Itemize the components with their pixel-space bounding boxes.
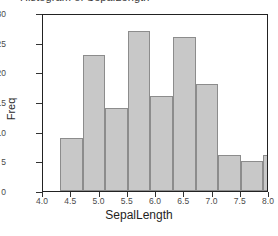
histogram-bar <box>105 108 128 191</box>
y-axis-tick-label: 10 <box>0 128 6 138</box>
y-axis-tick-label: 0 <box>0 187 6 197</box>
histogram-bar <box>128 31 151 191</box>
x-axis-tick-label: 7.0 <box>197 196 227 206</box>
histogram-figure: Histogram of SepalLength Freq SepalLengt… <box>0 0 278 236</box>
histogram-bar <box>196 84 219 191</box>
y-axis-tick-label: 20 <box>0 68 6 78</box>
plot-frame <box>42 14 268 192</box>
plot-area <box>43 15 267 191</box>
x-axis-label: SepalLength <box>0 208 278 222</box>
x-axis-tick-label: 8.0 <box>253 196 278 206</box>
x-axis-tick-label: 4.5 <box>55 196 85 206</box>
histogram-bar <box>263 155 267 191</box>
histogram-bar <box>218 155 241 191</box>
y-axis-tick-label: 30 <box>0 9 6 19</box>
y-axis-tick-label: 15 <box>0 98 6 108</box>
x-axis-tick-label: 5.5 <box>112 196 142 206</box>
histogram-bar <box>60 138 83 191</box>
histogram-bar <box>150 96 173 191</box>
x-axis-tick-label: 6.5 <box>168 196 198 206</box>
histogram-bar <box>83 55 106 191</box>
y-axis-tick <box>36 162 42 163</box>
x-axis-tick-label: 7.5 <box>225 196 255 206</box>
chart-title: Histogram of SepalLength <box>20 0 150 3</box>
y-axis-tick <box>36 103 42 104</box>
y-axis-tick <box>36 44 42 45</box>
histogram-bar <box>173 37 196 191</box>
y-axis-tick <box>36 133 42 134</box>
x-axis-tick-label: 4.0 <box>27 196 57 206</box>
histogram-bar <box>241 161 264 191</box>
y-axis-tick-label: 25 <box>0 39 6 49</box>
y-axis-label: Freq <box>5 79 17 139</box>
x-axis-tick-label: 6.0 <box>140 196 170 206</box>
y-axis-tick <box>36 14 42 15</box>
y-axis-tick <box>36 73 42 74</box>
y-axis-tick-label: 5 <box>0 157 6 167</box>
x-axis-tick-label: 5.0 <box>84 196 114 206</box>
